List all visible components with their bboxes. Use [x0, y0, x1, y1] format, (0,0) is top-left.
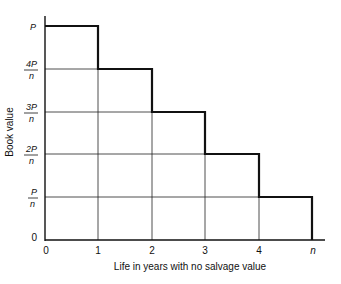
book-value-step-line	[45, 26, 312, 240]
y-tick-2P-n: 2P n	[24, 144, 38, 166]
y-tick-0: 0	[31, 232, 37, 243]
svg-text:3P: 3P	[26, 102, 37, 112]
svg-text:n: n	[29, 156, 34, 166]
svg-text:n: n	[29, 114, 34, 124]
y-tick-4P-n: 4P n	[24, 59, 38, 81]
x-axis-label: Life in years with no salvage value	[114, 261, 267, 272]
x-tick-labels: 0 1 2 3 4 n	[43, 245, 316, 256]
svg-text:1: 1	[95, 245, 101, 256]
y-tick-labels: P 4P n 3P n 2P n P n 0	[24, 22, 38, 243]
svg-text:P: P	[31, 187, 37, 197]
y-tick-3P-n: 3P n	[24, 102, 38, 124]
svg-text:n: n	[30, 199, 35, 209]
axes	[45, 16, 325, 241]
svg-text:3: 3	[202, 245, 208, 256]
svg-text:n: n	[29, 71, 34, 81]
svg-text:4: 4	[256, 245, 262, 256]
step-depreciation-chart: P 4P n 3P n 2P n P n 0 0 1 2 3 4 n L	[0, 0, 341, 284]
svg-text:4P: 4P	[26, 59, 37, 69]
y-tick-P: P	[30, 22, 36, 32]
horizontal-gridlines	[45, 69, 312, 197]
svg-text:0: 0	[43, 245, 49, 256]
svg-text:2: 2	[149, 245, 155, 256]
y-tick-P-n: P n	[28, 187, 38, 209]
svg-text:n: n	[310, 245, 316, 256]
y-axis-label: Book value	[4, 107, 15, 157]
svg-text:2P: 2P	[25, 144, 37, 154]
vertical-gridlines	[98, 26, 259, 240]
